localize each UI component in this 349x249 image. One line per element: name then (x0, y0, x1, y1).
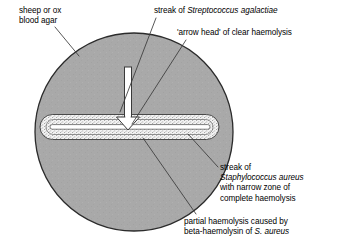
label-agar-line1: sheep or ox (19, 6, 61, 16)
label-partial-line1: partial haemolysis caused by (184, 217, 289, 227)
label-streak-of-staphylococcus-aureus: streak of Staphylococcus aureus with nar… (220, 163, 304, 204)
label-partial-line2: beta-haemolysin of S. aureus (184, 227, 289, 237)
label-strep-prefix: streak of (154, 6, 187, 15)
label-staph-line3: with narrow zone of (220, 183, 304, 193)
label-arrowhead-line1: 'arrow head' of clear haemolysis (177, 28, 292, 38)
label-strep-line1: streak of Streptococcus agalactiae (154, 6, 277, 16)
label-partial-prefix: beta-haemolysin of (184, 227, 255, 236)
leader-line-agar (55, 27, 79, 56)
camp-test-diagram: sheep or ox blood agar streak of Strepto… (0, 0, 349, 249)
label-staph-line1: streak of (220, 163, 304, 173)
label-staph-line4: complete haemolysis (220, 194, 304, 204)
label-staph-species: Staphylococcus aureus (220, 173, 304, 183)
label-streak-of-streptococcus-agalactiae: streak of Streptococcus agalactiae (154, 6, 277, 16)
diagram-canvas (0, 0, 349, 249)
label-strep-species: Streptococcus agalactiae (187, 6, 277, 15)
label-partial-species: S. aureus (255, 227, 290, 236)
label-agar-line2: blood agar (19, 16, 61, 26)
label-partial-haemolysis: partial haemolysis caused by beta-haemol… (184, 217, 289, 237)
label-arrow-head-of-clear-haemolysis: 'arrow head' of clear haemolysis (177, 28, 292, 38)
label-sheep-or-ox-blood-agar: sheep or ox blood agar (19, 6, 61, 26)
